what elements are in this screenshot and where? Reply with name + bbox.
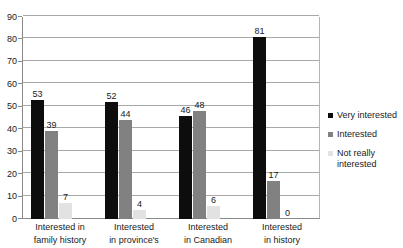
bar-value-label: 6 <box>211 195 216 205</box>
bar[interactable]: 17 <box>267 181 280 219</box>
y-axis-tick-label: 90 <box>7 13 17 22</box>
gridline <box>23 15 319 16</box>
legend-item-label: Interested <box>337 129 377 140</box>
legend-swatch-icon <box>328 132 333 137</box>
bar-value-label: 7 <box>63 192 68 202</box>
x-axis-category-label-line: Interested <box>245 221 319 234</box>
legend-item-label: Very interested <box>337 110 397 121</box>
y-axis-tick-label: 20 <box>7 170 17 179</box>
y-axis-tick-label: 40 <box>7 125 17 134</box>
legend-item-label-line: interested <box>337 159 377 170</box>
y-axis-tick-label: 70 <box>7 57 17 66</box>
legend-item[interactable]: Not reallyinterested <box>328 148 403 170</box>
bar-value-label: 44 <box>120 109 130 119</box>
x-axis-category-label: Interested infamily history <box>23 221 97 247</box>
bar-group: 81170 <box>245 17 319 219</box>
legend-item-label-line: Not really <box>337 148 377 159</box>
bar[interactable]: 48 <box>193 111 206 219</box>
x-axis-category-label: Interestedin Canadian <box>171 221 245 247</box>
bar-group: 53397 <box>23 17 97 219</box>
bar-value-label: 0 <box>285 208 290 218</box>
chart-legend: Very interestedInterestedNot reallyinter… <box>328 110 403 178</box>
x-axis-category-label-line: family history <box>23 234 97 247</box>
bar[interactable]: 39 <box>45 131 58 219</box>
x-axis-category-label-line: Interested <box>97 221 171 234</box>
x-axis-category-label-line: in history <box>245 234 319 247</box>
bar[interactable]: 52 <box>105 102 118 219</box>
x-axis-category-label-line: in Canadian <box>171 234 245 247</box>
bar-group: 46486 <box>171 17 245 219</box>
bar-value-label: 53 <box>32 89 42 99</box>
y-axis-tick-label: 0 <box>12 215 17 224</box>
bar[interactable]: 53 <box>31 100 44 219</box>
y-axis-tick-label: 50 <box>7 102 17 111</box>
bar[interactable]: 81 <box>253 37 266 219</box>
x-axis-category-label: Interestedin history <box>245 221 319 247</box>
legend-swatch-icon <box>328 151 333 156</box>
legend-item-label: Not reallyinterested <box>337 148 377 170</box>
bar[interactable]: 4 <box>133 210 146 219</box>
bar[interactable]: 46 <box>179 116 192 219</box>
bar-value-label: 48 <box>194 100 204 110</box>
bar-group: 52444 <box>97 17 171 219</box>
y-axis: 0102030405060708090 <box>0 17 20 219</box>
x-axis-category-label-line: Interested <box>171 221 245 234</box>
legend-swatch-icon <box>328 113 333 118</box>
bar-value-label: 81 <box>254 26 264 36</box>
y-axis-tick-label: 10 <box>7 192 17 201</box>
bar-value-label: 17 <box>268 170 278 180</box>
x-axis-category-label: Interestedin province's <box>97 221 171 247</box>
bar[interactable]: 44 <box>119 120 132 219</box>
x-axis-category-label-line: in province's <box>97 234 171 247</box>
legend-item[interactable]: Very interested <box>328 110 403 121</box>
bar[interactable]: 7 <box>59 203 72 219</box>
bar-value-label: 39 <box>46 120 56 130</box>
y-axis-tick-label: 60 <box>7 80 17 89</box>
bar-value-label: 52 <box>106 91 116 101</box>
bar-value-label: 46 <box>180 105 190 115</box>
y-axis-tick-label: 80 <box>7 35 17 44</box>
x-axis-category-label-line: Interested in <box>23 221 97 234</box>
bar[interactable]: 6 <box>207 206 220 219</box>
legend-item[interactable]: Interested <box>328 129 403 140</box>
bar-groups: 53397524444648681170 <box>23 17 320 219</box>
y-axis-tick-label: 30 <box>7 147 17 156</box>
x-axis-labels: Interested infamily historyInterestedin … <box>23 221 320 248</box>
bar-chart: 0102030405060708090 53397524444648681170… <box>0 0 403 248</box>
bar-value-label: 4 <box>137 199 142 209</box>
